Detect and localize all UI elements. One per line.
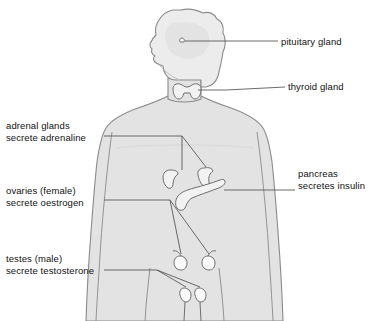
- label-pituitary-gland: pituitary gland: [281, 36, 342, 48]
- label-ovaries-line2: secrete oestrogen: [6, 197, 84, 209]
- endocrine-system-diagram: pituitary gland thyroid gland adrenal gl…: [0, 0, 369, 321]
- label-pituitary-line1: pituitary gland: [281, 36, 342, 47]
- label-testes: testes (male) secrete testosterone: [6, 253, 94, 276]
- ovary-right-body: [202, 256, 215, 270]
- label-ovaries: ovaries (female) secrete oestrogen: [6, 185, 84, 208]
- pituitary-gland: [180, 38, 185, 42]
- label-thyroid-line1: thyroid gland: [288, 81, 344, 92]
- label-thyroid-gland: thyroid gland: [288, 81, 344, 93]
- label-testes-line1: testes (male): [6, 253, 62, 264]
- leader-line-thyroid: [198, 87, 285, 90]
- ovary-left-body: [174, 256, 187, 270]
- label-adrenal-line1: adrenal glands: [6, 120, 70, 131]
- label-testes-line2: secrete testosterone: [6, 265, 94, 277]
- body-silhouette: [86, 9, 283, 321]
- label-adrenal-glands: adrenal glands secrete adrenaline: [6, 120, 86, 143]
- label-pancreas-line2: secretes insulin: [298, 180, 365, 192]
- label-pancreas-line1: pancreas: [298, 168, 338, 179]
- label-adrenal-line2: secrete adrenaline: [6, 132, 86, 144]
- label-ovaries-line1: ovaries (female): [6, 185, 76, 196]
- label-pancreas: pancreas secretes insulin: [298, 168, 365, 191]
